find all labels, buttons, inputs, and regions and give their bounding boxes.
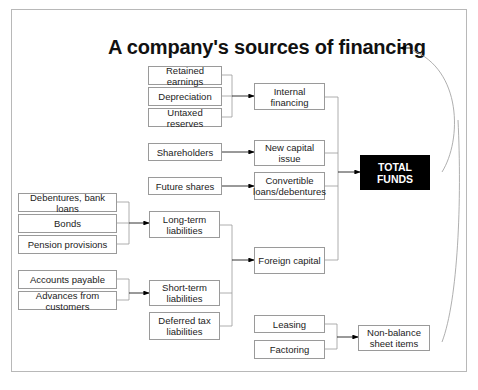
node-internal-financing: Internal financing [254,83,325,110]
node-advances-from-customers: Advances from customers [18,291,117,310]
node-long-term-liabilities: Long-term liabilities [149,211,220,238]
node-future-shares: Future shares [148,177,222,195]
node-new-capital-issue: New capital issue [254,140,325,166]
node-deferred-tax-liabilities: Deferred tax liabilities [149,312,220,340]
node-retained-earnings: Retained earnings [148,66,222,85]
node-foreign-capital: Foreign capital [254,247,325,274]
node-short-term-liabilities: Short-term liabilities [149,280,220,306]
node-accounts-payable: Accounts payable [18,270,117,289]
node-depreciation: Depreciation [148,87,222,106]
node-leasing: Leasing [254,315,325,333]
node-convertible-loans: Convertible loans/debentures [254,172,325,200]
node-shareholders: Shareholders [148,143,222,161]
node-debentures-bank-loans: Debentures, bank loans [18,193,117,212]
node-bonds: Bonds [18,214,117,233]
node-untaxed-reserves: Untaxed reserves [148,108,222,127]
node-total-funds: TOTAL FUNDS [360,155,430,190]
node-non-balance-sheet-items: Non-balance sheet items [358,325,430,351]
node-pension-provisions: Pension provisions [18,235,117,254]
node-factoring: Factoring [254,340,325,359]
